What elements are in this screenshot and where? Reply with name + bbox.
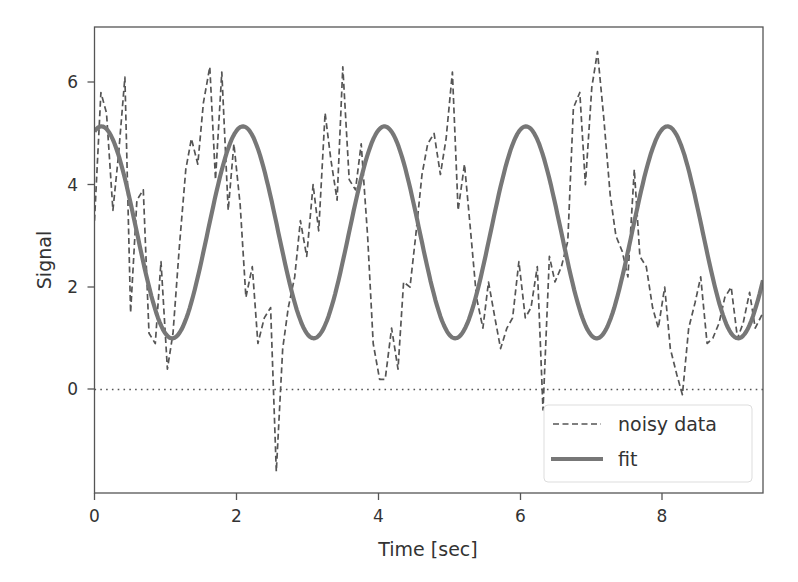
figure-background: [0, 0, 798, 582]
y-tick-label: 6: [67, 72, 78, 92]
y-tick-label: 4: [67, 175, 78, 195]
legend: noisy data fit: [544, 405, 752, 482]
x-tick-label: 4: [373, 506, 384, 526]
x-tick-label: 0: [89, 506, 100, 526]
y-tick-label: 0: [67, 379, 78, 399]
x-tick-label: 2: [231, 506, 242, 526]
x-tick-label: 8: [657, 506, 668, 526]
x-axis-label: Time [sec]: [377, 538, 477, 560]
chart: noisy data fit 0 2 4 6 8 Time [sec] 0 2 …: [0, 0, 798, 582]
y-axis-label: Signal: [33, 231, 55, 289]
x-tick-label: 6: [515, 506, 526, 526]
y-tick-label: 2: [67, 277, 78, 297]
legend-fit-label: fit: [618, 448, 637, 470]
legend-noisy-label: noisy data: [618, 413, 717, 435]
